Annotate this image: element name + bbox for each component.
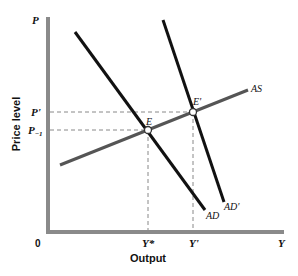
as-ad-diagram: P P' P−1 E E' AS AD AD' 0 Y* Y' Y Output… xyxy=(0,0,298,276)
as-label: AS xyxy=(250,83,262,94)
ad-curve xyxy=(75,32,205,210)
y-star-label: Y* xyxy=(142,237,155,249)
p-axis-label: P xyxy=(32,14,39,26)
e-prime-label: E' xyxy=(192,96,202,107)
origin-label: 0 xyxy=(35,238,41,249)
ad-label: AD xyxy=(205,210,220,221)
y-prime-label: Y' xyxy=(189,237,199,249)
p-minus1-label: P−1 xyxy=(28,124,42,138)
equilibrium-e-prime xyxy=(190,109,197,116)
y-axis-title: Price level xyxy=(10,97,22,151)
equilibrium-e xyxy=(145,127,152,134)
e-label: E xyxy=(145,116,152,127)
p-prime-label: P' xyxy=(31,106,41,118)
ad-prime-label: AD' xyxy=(223,201,240,212)
x-axis-title: Output xyxy=(130,252,166,264)
y-axis-end-label: Y xyxy=(278,237,286,249)
as-curve xyxy=(60,90,248,165)
